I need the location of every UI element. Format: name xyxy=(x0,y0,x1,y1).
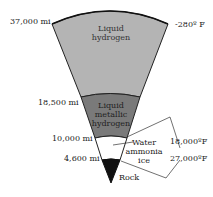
layer-label-water-ammonia-ice: Water ammonia ice xyxy=(124,138,164,165)
radius-label-18500: 18,500 mi xyxy=(38,98,79,107)
temp-label-27000: 27,000ºF xyxy=(170,154,207,163)
layer-label-liquid-hydrogen: Liquid hydrogen xyxy=(88,24,134,42)
radius-label-37000: 37,000 mi xyxy=(10,17,51,26)
layer-label-metallic-hydrogen: Liquid metallic hydrogen xyxy=(88,101,134,128)
radius-label-10000: 10,000 mi xyxy=(52,134,93,143)
radius-label-4600: 4,600 mi xyxy=(64,154,100,163)
planet-interior-diagram: 37,000 mi -280º F 18,500 mi 10,000 mi 4,… xyxy=(0,0,213,197)
layer-rock xyxy=(102,159,120,183)
temp-label-18000: 18,000ºF xyxy=(170,137,207,146)
layer-label-rock: Rock xyxy=(119,173,139,182)
temp-label-surface: -280º F xyxy=(175,20,205,29)
